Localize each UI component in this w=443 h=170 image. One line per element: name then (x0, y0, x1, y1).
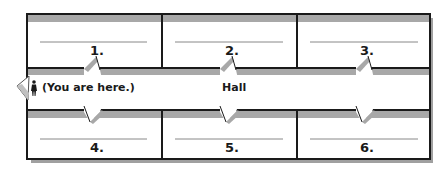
room-6-label: 6. (360, 140, 374, 155)
you-are-here-label: (You are here.) (42, 81, 135, 94)
room-3-label: 3. (360, 43, 374, 58)
room-5-label: 5. (225, 140, 239, 155)
room-3-band (298, 15, 429, 22)
room-2-band (163, 15, 297, 22)
room-1-label: 1. (90, 43, 104, 58)
floor-plan: 1. 2. 3. 4. 5. 6. Hall (You are here.) (0, 0, 443, 170)
hall-label: Hall (222, 81, 246, 94)
room-2-label: 2. (225, 43, 239, 58)
room-4-label: 4. (90, 140, 104, 155)
room-1-band (28, 15, 162, 22)
entrance-door (17, 76, 29, 100)
